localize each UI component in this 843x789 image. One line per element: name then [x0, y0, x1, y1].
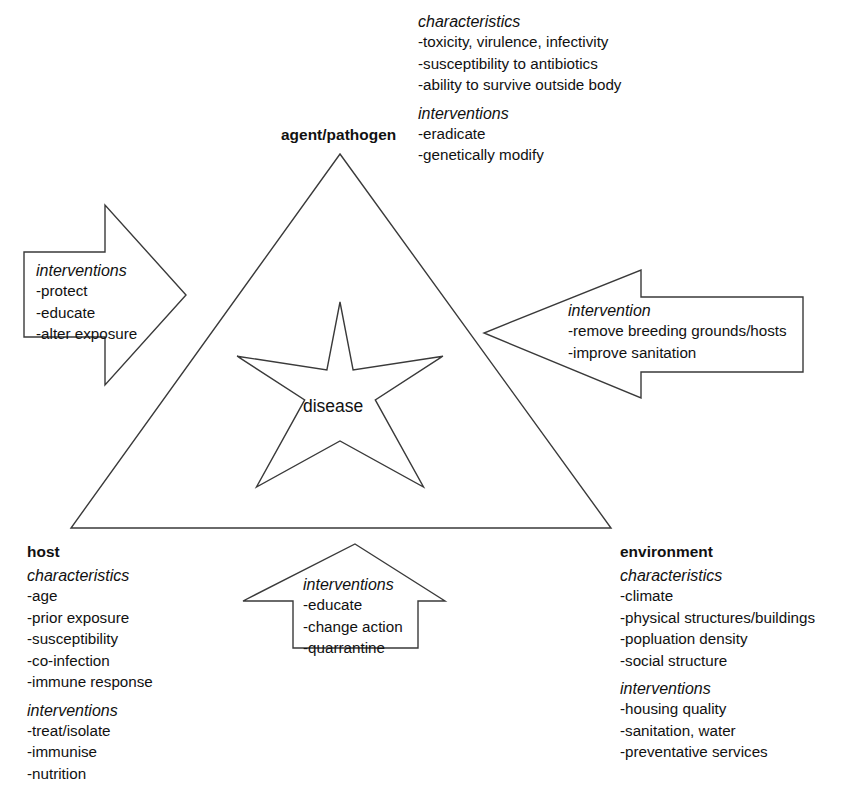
bottom-arrow-text-block: interventions -educate -change action -q…	[303, 576, 403, 659]
agent-intervention-item: -eradicate	[418, 123, 621, 145]
agent-pathogen-text-block: characteristics -toxicity, virulence, in…	[418, 13, 621, 166]
environment-intervention-item: -housing quality	[620, 698, 815, 720]
host-intervention-item: -nutrition	[27, 763, 153, 785]
left-arrow-intervention-item: -alter exposure	[36, 323, 137, 345]
star-shape	[237, 302, 443, 487]
bottom-arrow-intervention-item: -educate	[303, 594, 403, 616]
environment-characteristic-item: -physical structures/buildings	[620, 607, 815, 629]
agent-characteristic-item: -susceptibility to antibiotics	[418, 53, 621, 75]
host-characteristic-item: -prior exposure	[27, 607, 153, 629]
right-arrow-intervention-label: intervention	[568, 302, 787, 320]
host-intervention-item: -treat/isolate	[27, 720, 153, 742]
host-text-block: characteristics -age -prior exposure -su…	[27, 567, 153, 784]
agent-characteristic-item: -ability to survive outside body	[418, 74, 621, 96]
agent-characteristics-label: characteristics	[418, 13, 621, 31]
environment-characteristics-label: characteristics	[620, 567, 815, 585]
agent-interventions-label: interventions	[418, 105, 621, 123]
host-intervention-item: -immunise	[27, 741, 153, 763]
left-arrow-text-block: interventions -protect -educate -alter e…	[36, 262, 137, 345]
vertex-label-host: host	[27, 541, 60, 563]
spacer	[620, 671, 815, 680]
bottom-arrow-intervention-item: -quarrantine	[303, 637, 403, 659]
environment-intervention-item: -preventative services	[620, 741, 815, 763]
environment-text-block: characteristics -climate -physical struc…	[620, 567, 815, 763]
environment-characteristic-item: -social structure	[620, 650, 815, 672]
epi-triangle-diagram: agent/pathogen characteristics -toxicity…	[0, 0, 843, 789]
host-characteristic-item: -susceptibility	[27, 628, 153, 650]
bottom-arrow-interventions-label: interventions	[303, 576, 403, 594]
vertex-label-environment: environment	[620, 541, 713, 563]
host-characteristic-item: -co-infection	[27, 650, 153, 672]
disease-label: disease	[303, 396, 363, 417]
environment-intervention-item: -sanitation, water	[620, 720, 815, 742]
environment-characteristic-item: -climate	[620, 585, 815, 607]
host-characteristic-item: -immune response	[27, 671, 153, 693]
left-arrow-interventions-label: interventions	[36, 262, 137, 280]
spacer	[418, 96, 621, 105]
agent-intervention-item: -genetically modify	[418, 144, 621, 166]
right-arrow-text-block: intervention -remove breeding grounds/ho…	[568, 302, 787, 363]
right-arrow-intervention-item: -improve sanitation	[568, 342, 787, 364]
left-arrow-intervention-item: -educate	[36, 302, 137, 324]
left-arrow-intervention-item: -protect	[36, 280, 137, 302]
environment-characteristic-item: -popluation density	[620, 628, 815, 650]
host-interventions-label: interventions	[27, 702, 153, 720]
triangle-shape	[71, 154, 611, 528]
spacer	[27, 693, 153, 702]
environment-interventions-label: interventions	[620, 680, 815, 698]
host-characteristics-label: characteristics	[27, 567, 153, 585]
bottom-arrow-intervention-item: -change action	[303, 616, 403, 638]
right-arrow-intervention-item: -remove breeding grounds/hosts	[568, 320, 787, 342]
host-characteristic-item: -age	[27, 585, 153, 607]
agent-characteristic-item: -toxicity, virulence, infectivity	[418, 31, 621, 53]
vertex-label-agent-pathogen: agent/pathogen	[281, 124, 396, 146]
